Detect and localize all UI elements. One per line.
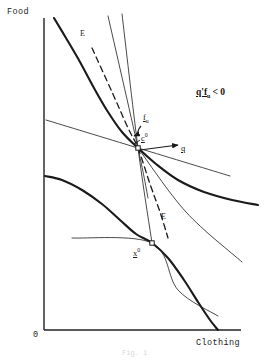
q-vector-label: q — [181, 144, 185, 153]
curves-group — [45, 14, 258, 330]
expansion-path-label-lower: E — [161, 213, 166, 221]
production-frontier-thick — [45, 176, 218, 330]
x0-superscript: 0 — [137, 247, 140, 253]
condition-subscript: u — [207, 93, 210, 99]
condition-base: q'f — [196, 87, 207, 97]
f-u-subscript: u — [146, 118, 149, 124]
q-base: q — [181, 143, 185, 153]
c0-tangency-marker — [136, 146, 140, 150]
expansion-path-dashed — [92, 48, 168, 238]
x0-point-label: x0 — [133, 247, 140, 257]
c0-point-label: c0 — [141, 132, 148, 142]
x0-production-marker — [150, 241, 154, 245]
c0-superscript: 0 — [145, 132, 148, 138]
figure-canvas — [0, 0, 279, 364]
figure-caption: Fig. 1 — [122, 350, 147, 357]
origin-label: 0 — [33, 331, 39, 340]
price-ray-steep-a — [108, 16, 148, 198]
f-u-vector-label: fu — [143, 113, 149, 124]
expansion-path-label-upper: E — [80, 30, 85, 38]
figure-container: Food Clothing 0 E E fu c0 q x0 q'fu< 0 F… — [0, 0, 279, 364]
condition-tail: < 0 — [212, 87, 225, 97]
price-line-at-x0 — [72, 238, 218, 316]
q-vector-arrow — [140, 145, 178, 150]
indifference-curve-thick — [54, 18, 258, 205]
y-axis-label: Food — [7, 8, 29, 17]
x-axis-label: Clothing — [196, 339, 240, 348]
price-ray-steep-b — [122, 14, 152, 243]
axes-group — [44, 18, 241, 330]
condition-annotation: q'fu< 0 — [196, 88, 225, 99]
